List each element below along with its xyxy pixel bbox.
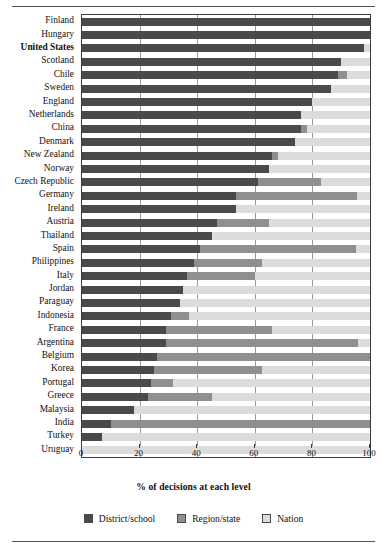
- category-label: New Zealand: [24, 149, 74, 159]
- bar-row: [82, 205, 370, 213]
- bar-segment-nation: [180, 299, 370, 307]
- bar-segment-district: [82, 31, 370, 39]
- bar-row: [82, 71, 370, 79]
- category-label: Spain: [53, 243, 74, 253]
- bar-row: [82, 393, 370, 401]
- bar-segment-nation: [364, 44, 370, 52]
- bar-segment-district: [82, 138, 295, 146]
- category-label: Belgium: [42, 350, 74, 360]
- bar-row: [82, 286, 370, 294]
- bar-segment-district: [82, 259, 194, 267]
- bar-segment-region: [194, 259, 262, 267]
- bar-segment-district: [82, 299, 180, 307]
- bar-row: [82, 219, 370, 227]
- bar-segment-nation: [212, 232, 370, 240]
- category-label: Turkey: [47, 430, 74, 440]
- bar-segment-district: [82, 326, 166, 334]
- bar-segment-region: [154, 366, 262, 374]
- chart-figure: FinlandHungaryUnited StatesScotlandChile…: [0, 0, 387, 553]
- bar-segment-district: [82, 219, 217, 227]
- bar-segment-district: [82, 272, 187, 280]
- category-label: Greece: [47, 390, 74, 400]
- bar-segment-nation: [301, 111, 370, 119]
- category-label: Indonesia: [38, 310, 74, 320]
- tick-label: 40: [192, 448, 201, 458]
- bar-segment-district: [82, 353, 157, 361]
- category-label: Germany: [39, 189, 74, 199]
- bar-segment-district: [82, 379, 151, 387]
- legend-swatch-icon: [84, 514, 93, 523]
- bar-row: [82, 259, 370, 267]
- x-axis-ticks: 020406080100: [81, 444, 369, 458]
- category-label: Hungary: [41, 29, 74, 39]
- category-label: Austria: [46, 216, 74, 226]
- bar-segment-district: [82, 420, 111, 428]
- bar-row: [82, 353, 370, 361]
- bar-segment-district: [82, 85, 331, 93]
- bar-row: [82, 245, 370, 253]
- bar-segment-nation: [312, 98, 370, 106]
- category-label: Netherlands: [29, 109, 74, 119]
- bar-row: [82, 111, 370, 119]
- plot-wrapper: FinlandHungaryUnited StatesScotlandChile…: [0, 14, 387, 469]
- category-label: China: [52, 122, 74, 132]
- category-label: Malaysia: [40, 404, 74, 414]
- bar-segment-nation: [341, 58, 370, 66]
- tick-label: 60: [249, 448, 258, 458]
- bar-segment-nation: [183, 286, 370, 294]
- category-label: Chile: [54, 69, 74, 79]
- bar-segment-district: [82, 366, 154, 374]
- bar-segment-district: [82, 232, 212, 240]
- bar-segment-nation: [358, 339, 370, 347]
- bar-row: [82, 433, 370, 441]
- bar-segment-region: [200, 245, 356, 253]
- bar-segment-district: [82, 245, 200, 253]
- bar-row: [82, 406, 370, 414]
- bar-segment-district: [82, 111, 301, 119]
- bar-segment-region: [111, 420, 370, 428]
- bar-segment-district: [82, 58, 341, 66]
- category-label: United States: [21, 42, 74, 52]
- bar-segment-nation: [347, 71, 370, 79]
- bar-row: [82, 312, 370, 320]
- category-label: France: [48, 323, 74, 333]
- bar-segment-district: [82, 98, 312, 106]
- chart-legend: District/schoolRegion/stateNation: [0, 513, 387, 524]
- bar-segment-region: [236, 192, 357, 200]
- bar-segment-nation: [102, 433, 370, 441]
- bar-row: [82, 420, 370, 428]
- bar-segment-district: [82, 312, 171, 320]
- category-label: Denmark: [39, 136, 74, 146]
- bar-row: [82, 31, 370, 39]
- bar-row: [82, 299, 370, 307]
- bar-segment-region: [258, 178, 321, 186]
- legend-swatch-icon: [177, 514, 186, 523]
- bar-segment-nation: [134, 406, 370, 414]
- category-axis-labels: FinlandHungaryUnited StatesScotlandChile…: [0, 14, 78, 456]
- category-label: Argentina: [37, 337, 74, 347]
- bar-segment-district: [82, 433, 102, 441]
- bar-segment-district: [82, 152, 272, 160]
- bar-segment-district: [82, 205, 236, 213]
- bar-row: [82, 18, 370, 26]
- bar-segment-district: [82, 286, 183, 294]
- bar-row: [82, 379, 370, 387]
- bar-segment-nation: [189, 312, 370, 320]
- bar-row: [82, 326, 370, 334]
- tick-label: 0: [79, 448, 84, 458]
- bar-segment-nation: [269, 219, 370, 227]
- bar-segment-region: [187, 272, 255, 280]
- bar-segment-district: [82, 339, 166, 347]
- category-label: Finland: [45, 15, 74, 25]
- category-label: Uruguay: [41, 444, 74, 454]
- bar-segment-nation: [255, 272, 370, 280]
- category-label: India: [55, 417, 74, 427]
- bar-segment-nation: [269, 165, 370, 173]
- legend-label: Region/state: [192, 513, 240, 524]
- bar-segment-nation: [278, 152, 370, 160]
- plot-area: [81, 14, 371, 458]
- category-label: Philippines: [32, 256, 74, 266]
- bar-row: [82, 98, 370, 106]
- category-label: Ireland: [47, 203, 74, 213]
- bar-segment-district: [82, 44, 364, 52]
